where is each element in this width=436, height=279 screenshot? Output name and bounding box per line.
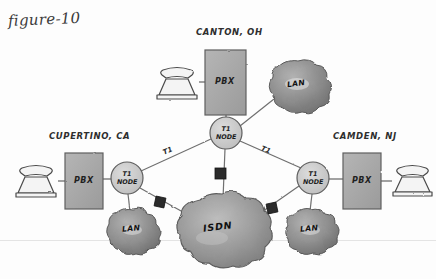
link-t1-cupertino-canton [141,139,211,171]
phone-icon-cupertino-foot [16,193,56,197]
isdn-cloud-shape [177,192,272,268]
connector-block-camden [266,202,278,214]
phone-icon-camden-handset [397,166,429,177]
link-t1-canton-camden [240,141,301,168]
phone-icon-cupertino-handset [20,166,53,177]
phone-icon-camden [393,166,432,197]
phone-icon-camden-foot [393,192,432,196]
lan-cloud-cupertino [107,208,161,254]
t1-node-circle-cupertino [111,162,143,194]
lan-cloud-canton-highlight [285,78,309,90]
lan-cloud-cupertino-highlight [122,225,142,235]
lan-cloud-camden [285,208,339,254]
site-label-cupertino: CUPERTINO, CA [49,131,130,141]
pbx-box-canton [205,50,246,115]
isdn-cloud-highlight [196,231,228,245]
phone-icon-canton [157,68,197,100]
isdn-cloud [177,192,272,268]
t1-node-circle-canton [210,117,242,149]
phone-icon-cupertino-base [18,177,54,193]
lan-cloud-canton [269,60,331,114]
connector-block-cupertino [154,196,166,208]
phone-icon-camden-base [395,177,430,192]
site-label-canton: CANTON, OH [196,27,263,37]
phone-icon-canton-foot [157,95,197,99]
phone-icon-cupertino [16,166,56,198]
pbx-box-camden [343,153,381,209]
phone-icon-canton-handset [161,68,194,79]
network-diagram-figure: figure-10 CANTON, OH CUPERTINO, CA CAMDE… [0,0,436,279]
pbx-box-cupertino [65,153,103,209]
figure-title: figure-10 [8,9,81,30]
site-label-camden: CAMDEN, NJ [333,131,397,141]
t1-node-circles-group [111,117,329,194]
lan-cloud-camden-highlight [300,225,320,235]
connector-block-canton [215,168,226,179]
t1-node-circle-camden [297,162,329,194]
phone-icon-canton-base [159,79,195,95]
